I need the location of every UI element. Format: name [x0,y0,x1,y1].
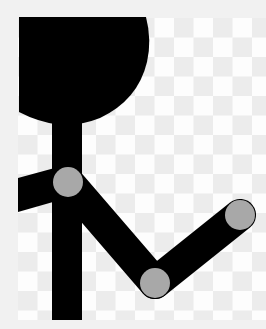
hand-joint-icon [225,200,255,230]
torso-bar [52,118,82,320]
figure-canvas [0,0,266,329]
shoulder-joint-icon [53,167,83,197]
stick-figure-illustration [0,0,266,329]
elbow-joint-icon [140,268,170,298]
